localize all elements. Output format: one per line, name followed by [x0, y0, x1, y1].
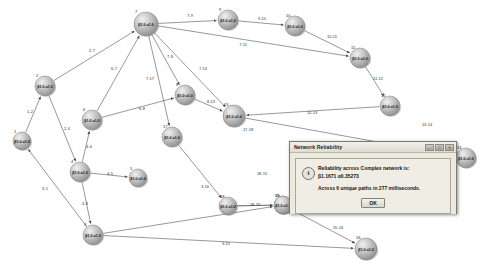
- graph-edge: [238, 21, 283, 25]
- edge-label: 7-13: [199, 66, 208, 71]
- close-icon[interactable]: ✕: [445, 144, 454, 151]
- edge-label: 9-10: [258, 16, 267, 21]
- node-id: 10: [286, 13, 291, 18]
- graph-node[interactable]: 16β1.0 α1.0: [355, 235, 378, 261]
- node-id: 1: [14, 129, 17, 134]
- edge-label: 15-16: [333, 225, 344, 230]
- node-label: β1.0 α1.0: [14, 140, 29, 144]
- edge-label: 7-8: [167, 54, 174, 59]
- edge-label: 3-15: [222, 241, 231, 246]
- edge-label: 4-6: [86, 144, 93, 149]
- graph-node[interactable]: 17β1.0 α1.0: [162, 124, 183, 148]
- node-id: 14: [457, 145, 462, 150]
- node-label: β1.0 α1.0: [130, 177, 145, 181]
- graph-node[interactable]: 14β1.0 α1.0: [456, 145, 477, 169]
- node-id: 19: [275, 193, 280, 198]
- edge-label: 6-8: [139, 106, 146, 111]
- dialog-titlebar[interactable]: Network Reliability – □ ✕: [290, 142, 456, 153]
- graph-edge: [366, 67, 384, 96]
- node-id: 16: [356, 235, 361, 240]
- graph-node[interactable]: 7β1.0 α1.0: [134, 9, 159, 37]
- graph-node[interactable]: 12β1.0 α1.0: [380, 93, 401, 117]
- graph-edge: [49, 96, 76, 162]
- application-window: 1-22-42-73-14-34-54-66-76-87-97-87-137-1…: [0, 0, 493, 270]
- node-label: β1.0 α1.0: [352, 57, 367, 61]
- node-id: 13: [224, 102, 229, 107]
- edge-label: 18-19: [250, 202, 261, 207]
- graph-edge: [102, 98, 174, 117]
- edges-layer: [26, 21, 455, 249]
- graph-edge: [54, 31, 135, 80]
- node-label: β1.0 α1.0: [382, 105, 397, 109]
- graph-node[interactable]: 2β1.0 α1.0: [35, 73, 56, 97]
- graph-edge: [97, 36, 139, 111]
- network-graph: 1-22-42-73-14-34-54-66-76-87-97-87-137-1…: [0, 0, 493, 270]
- edge-label: 7-17: [146, 76, 155, 81]
- node-id: 5: [130, 166, 133, 171]
- edge-label: 11-12: [373, 76, 384, 81]
- dialog-content-panel: i Reliability across Complex network is:…: [295, 158, 451, 214]
- node-label: β1.0 α1.0: [138, 23, 153, 27]
- graph-node[interactable]: 18β1.0 α1.0: [219, 194, 238, 216]
- edge-label: 8-13: [207, 99, 216, 104]
- info-icon: i: [302, 167, 315, 180]
- edge-label: 12-13: [307, 110, 318, 115]
- graph-edge: [152, 35, 179, 85]
- node-label: β1.0 α1.0: [72, 171, 87, 175]
- node-label: β1.0 α1.0: [85, 234, 100, 238]
- maximize-icon[interactable]: □: [435, 144, 444, 151]
- dialog-message-line-3: Across 6 unique paths in 277 millisecond…: [318, 185, 446, 193]
- edge-label: 2-4: [64, 126, 71, 131]
- edge-label: 1-2: [27, 109, 34, 114]
- edge-label: 10-11: [327, 34, 338, 39]
- ok-button[interactable]: OK: [361, 198, 385, 208]
- graph-node[interactable]: 6β1.0 α1.0: [82, 107, 103, 131]
- graph-edge: [158, 21, 216, 24]
- graph-node[interactable]: 10β1.0 α1.0: [285, 13, 306, 37]
- node-label: β1.0 α1.0: [177, 94, 192, 98]
- node-id: 17: [163, 124, 168, 129]
- window-controls: – □ ✕: [425, 144, 454, 151]
- node-label: β1.0 α1.0: [164, 136, 179, 140]
- node-label: β1.0 α1.0: [220, 205, 235, 209]
- graph-edge: [26, 97, 41, 133]
- edge-label: 3-16: [201, 184, 210, 189]
- graph-node[interactable]: 9β1.0 α1.0: [218, 7, 239, 31]
- edge-label: 6-7: [111, 66, 118, 71]
- node-id: 12: [381, 93, 386, 98]
- graph-node[interactable]: 8β1.0 α1.0: [175, 82, 196, 106]
- dialog-message-line-2: β1.1671 α0.35273: [318, 173, 446, 181]
- graph-edge: [179, 145, 222, 198]
- graph-edge: [291, 209, 355, 243]
- node-id: 6: [83, 107, 86, 112]
- node-id: 18: [220, 194, 225, 199]
- graph-edge: [158, 26, 348, 56]
- edge-label: 13-14: [422, 122, 433, 127]
- graph-node[interactable]: 11β1.0 α1.0: [350, 45, 371, 69]
- dialog-body: i Reliability across Complex network is:…: [290, 153, 456, 214]
- node-label: β1.0 α1.0: [458, 157, 473, 161]
- node-id: 9: [219, 7, 222, 12]
- graph-node[interactable]: 1β1.0 α1.0: [13, 129, 32, 151]
- graph-node[interactable]: 13β1.0 α1.0: [223, 102, 246, 128]
- graph-node[interactable]: 3β1.0 α1.0: [83, 222, 104, 246]
- node-label: β1.0 α1.0: [84, 119, 99, 123]
- node-label: β1.0 α1.0: [358, 248, 373, 252]
- edge-label: 17-18: [243, 127, 254, 132]
- dialog-title: Network Reliability: [294, 144, 425, 150]
- node-id: 2: [36, 73, 39, 78]
- node-label: β1.0 α1.0: [37, 85, 52, 89]
- dialog-message: Reliability across Complex network is: β…: [318, 165, 446, 193]
- node-label: β1.0 α1.0: [220, 19, 235, 23]
- graph-node[interactable]: 5β1.0 α1.0: [129, 166, 148, 188]
- edge-label: 4-5: [107, 171, 114, 176]
- graph-node[interactable]: 4β1.0 α1.0: [70, 159, 91, 183]
- node-id: 7: [135, 9, 138, 14]
- node-label: β1.0 α1.0: [287, 25, 302, 29]
- minimize-icon[interactable]: –: [425, 144, 434, 151]
- graph-edge: [28, 149, 86, 226]
- edge-label: 7-9: [187, 13, 194, 18]
- network-reliability-dialog[interactable]: Network Reliability – □ ✕ i Reliability …: [289, 141, 457, 214]
- edge-label: 4-3: [82, 201, 89, 206]
- node-label: β1.0 α1.0: [226, 115, 241, 119]
